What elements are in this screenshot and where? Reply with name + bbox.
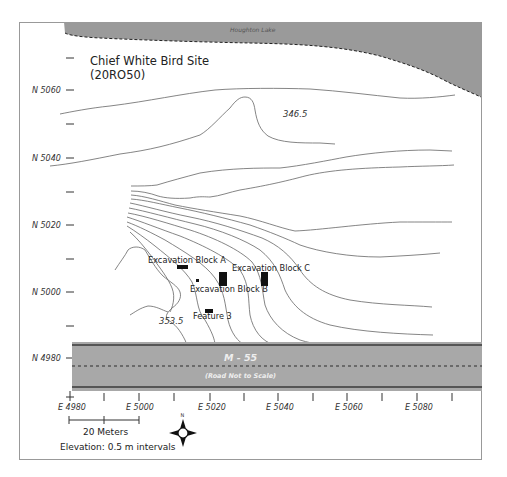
easting-label-5040: E 5040 [266,403,294,412]
site-number: (20RO50) [90,68,145,82]
contour-label-346-5: 346.5 [283,109,307,119]
excavation-block-a [177,265,188,269]
label-excavation-block-b: Excavation Block B [190,284,268,294]
easting-label-5020: E 5020 [198,403,226,412]
easting-label-5080: E 5080 [405,403,433,412]
road-sublabel: (Road Not to Scale) [205,372,276,380]
road-label: M - 55 [224,352,258,363]
northing-label-5020: N 5020 [32,221,61,230]
easting-label-5000: E 5000 [126,403,154,412]
northing-label-5000: N 5000 [32,288,61,297]
label-feature-3: Feature 3 [193,311,232,321]
label-excavation-block-c: Excavation Block C [232,263,310,273]
site-map: Houghton Lake Chief White Bird Site (20R… [0,0,507,477]
road-m55: M - 55 (Road Not to Scale) [72,342,482,391]
label-excavation-block-a: Excavation Block A [148,255,226,265]
north-label: N [181,412,185,418]
northing-label-5040: N 5040 [32,154,61,163]
northing-label-5060: N 5060 [32,86,61,95]
easting-label-5060: E 5060 [335,403,363,412]
easting-label-4980: E 4980 [58,403,86,412]
small-feature [196,279,199,282]
site-title: Chief White Bird Site [90,54,209,68]
contour-label-353-5: 353.5 [159,316,183,326]
elevation-note: Elevation: 0.5 m intervals [60,442,176,452]
northing-label-4980: N 4980 [32,354,61,363]
lake-label: Houghton Lake [230,26,276,34]
scale-label: 20 Meters [83,427,128,437]
